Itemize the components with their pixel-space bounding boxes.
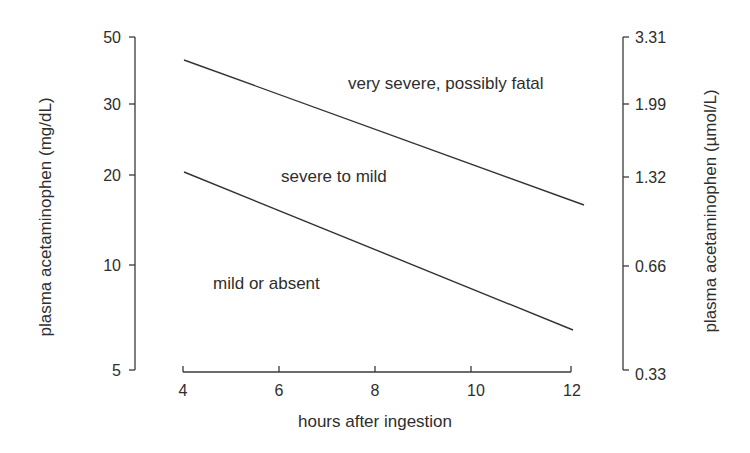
left-y-axis: 50 30 20 10 5 plasma acetaminophen (mg/d… — [36, 29, 135, 379]
left-y-axis-title: plasma acetaminophen (mg/dL) — [36, 97, 55, 336]
left-y-tick-label: 5 — [112, 362, 121, 379]
right-y-axis-title: plasma acetaminophen (µmol/L) — [701, 89, 720, 332]
left-y-tick-label: 10 — [103, 257, 121, 274]
left-y-tick-label: 50 — [103, 29, 121, 46]
region-label-very-severe: very severe, possibly fatal — [348, 74, 544, 93]
x-tick-label: 4 — [179, 382, 188, 399]
x-tick-label: 8 — [371, 382, 380, 399]
left-y-tick-label: 30 — [103, 96, 121, 113]
right-y-axis: 3.31 1.99 1.32 0.66 0.33 plasma acetamin… — [623, 29, 720, 383]
x-axis-title: hours after ingestion — [298, 412, 452, 431]
acetaminophen-nomogram-chart: 50 30 20 10 5 plasma acetaminophen (mg/d… — [0, 0, 750, 453]
x-tick-label: 12 — [563, 382, 581, 399]
x-tick-label: 6 — [275, 382, 284, 399]
region-label-mild-or-absent: mild or absent — [213, 274, 320, 293]
x-tick-label: 10 — [467, 382, 485, 399]
lower-threshold-line — [184, 172, 573, 330]
right-y-tick-label: 0.66 — [635, 258, 666, 275]
right-y-tick-label: 1.32 — [635, 169, 666, 186]
right-y-tick-label: 1.99 — [635, 96, 666, 113]
right-y-tick-label: 0.33 — [635, 366, 666, 383]
right-y-tick-label: 3.31 — [635, 29, 666, 46]
region-labels: very severe, possibly fatal severe to mi… — [213, 74, 544, 293]
x-axis: 4 6 8 10 12 hours after ingestion — [179, 366, 581, 431]
left-y-tick-label: 20 — [103, 167, 121, 184]
region-label-severe-to-mild: severe to mild — [281, 167, 387, 186]
